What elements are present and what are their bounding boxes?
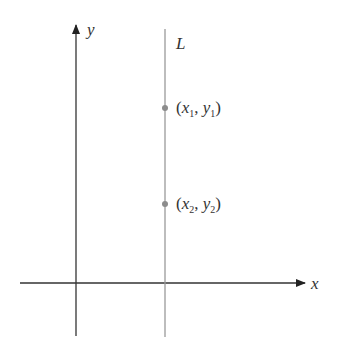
- line-label: L: [175, 34, 185, 53]
- point-1: [162, 105, 168, 111]
- coordinate-diagram: y x L (x1, y1) (x2, y2): [0, 0, 349, 354]
- y-axis-label: y: [85, 20, 95, 39]
- x-axis-label: x: [310, 274, 319, 293]
- point-1-label: (x1, y1): [176, 98, 221, 119]
- point-2-label: (x2, y2): [176, 194, 221, 215]
- point-2: [162, 201, 168, 207]
